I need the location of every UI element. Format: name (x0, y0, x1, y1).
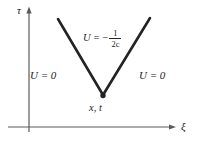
xi-axis (8, 124, 176, 129)
interior-region-formula: U = − 1 2c (83, 29, 121, 48)
tau-axis-arrowhead (26, 7, 31, 14)
left-region-label: U = 0 (30, 70, 56, 81)
formula-minus-sign: − (103, 33, 109, 44)
characteristic-cone-diagram: τ ξ U = 0 U = 0 U = − 1 2c x, t (0, 0, 197, 144)
formula-numerator: 1 (111, 29, 119, 38)
apex-label: x, t (89, 103, 102, 114)
xi-axis-label: ξ (181, 121, 186, 132)
formula-lhs: U (83, 33, 91, 44)
apex-point (100, 93, 105, 98)
formula-equals: = (94, 33, 100, 44)
right-region-label: U = 0 (139, 70, 165, 81)
tau-axis-label: τ (17, 5, 21, 16)
xi-axis-arrowhead (169, 124, 176, 129)
formula-fraction: 1 2c (109, 29, 121, 48)
formula-denominator: 2c (109, 39, 121, 48)
